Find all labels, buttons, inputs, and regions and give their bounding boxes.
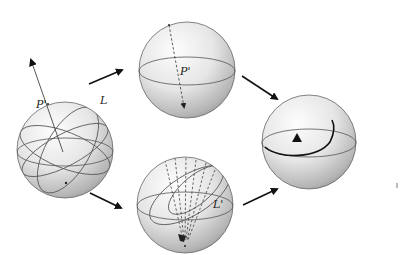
sphere-bottom: L'	[137, 154, 240, 253]
sphere-diagram: P' L P' L'	[0, 0, 413, 255]
arrow-source-to-bottom	[90, 193, 121, 208]
sphere-top: P'	[139, 22, 235, 118]
arrow-bottom-to-result	[243, 189, 277, 205]
scan-artifact	[396, 183, 398, 188]
label-top-pole: P'	[179, 65, 190, 78]
south-point-icon	[65, 182, 67, 184]
arrow-source-to-top	[89, 70, 122, 84]
sphere-source: P' L	[14, 60, 116, 203]
sphere-result	[262, 95, 356, 189]
arrow-top-to-result	[242, 76, 277, 99]
pole-point-icon	[47, 103, 49, 105]
label-bottom-line: L'	[212, 198, 223, 211]
label-source-pole: P'	[35, 98, 46, 111]
label-source-line: L	[99, 94, 107, 107]
